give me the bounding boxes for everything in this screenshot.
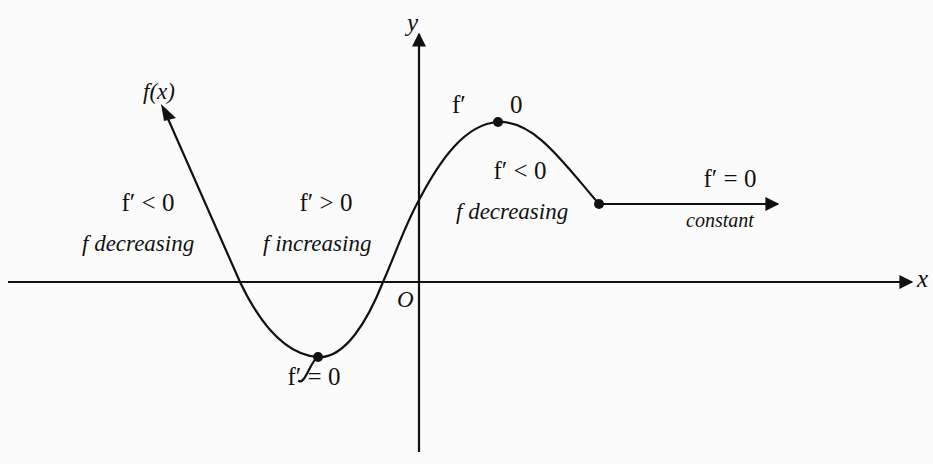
- origin-label: O: [397, 288, 414, 311]
- right-decreasing-condition: f′ < 0: [494, 158, 547, 183]
- maximum-label-derivative: f′: [452, 92, 466, 117]
- left-decreasing-description: f decreasing: [82, 232, 194, 255]
- increasing-condition: f′ > 0: [300, 190, 353, 215]
- function-curve: [165, 112, 599, 381]
- right-decreasing-description: f decreasing: [456, 200, 568, 223]
- derivative-sign-diagram: y x O f(x) f′ < 0 f decreasing f′ > 0 f …: [0, 0, 933, 464]
- constant-condition: f′ = 0: [704, 166, 757, 191]
- maximum-label-zero: 0: [510, 92, 523, 117]
- curve-label: f(x): [143, 80, 175, 103]
- y-axis-label: y: [407, 10, 418, 35]
- left-decreasing-condition: f′ < 0: [122, 190, 175, 215]
- increasing-description: f increasing: [263, 232, 371, 255]
- x-axis-label: x: [917, 266, 928, 291]
- minimum-label: f′ = 0: [288, 364, 341, 389]
- curve-arrowhead-icon: [161, 104, 176, 121]
- constant-description: constant: [686, 210, 754, 230]
- minimum-point: [313, 352, 323, 362]
- constant-start-point: [594, 199, 604, 209]
- maximum-point: [493, 117, 503, 127]
